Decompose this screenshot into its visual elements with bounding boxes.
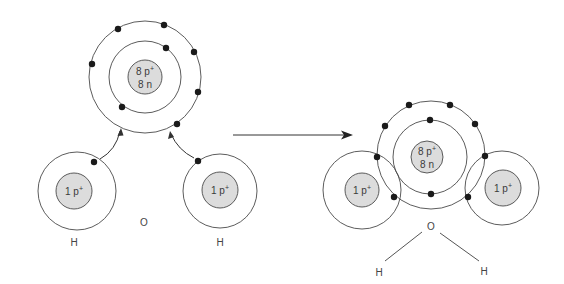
electron-dot <box>163 45 169 51</box>
formula-hydrogen-left-label: H <box>375 267 382 278</box>
hydrogen-left-symbol-label: H <box>70 237 77 248</box>
oxygen-nucleus-neutrons: 8 n <box>138 79 152 90</box>
bond-line-right <box>440 233 479 261</box>
bond-line-left <box>385 232 422 261</box>
curved-arrow-icon <box>171 134 194 158</box>
structural-formula: O H H <box>375 221 487 278</box>
electron-dot <box>89 61 95 67</box>
before-hydrogen-left-atom: 1 p+ <box>38 152 116 230</box>
electron-dot <box>406 102 412 108</box>
hydrogen-right-symbol-label: H <box>216 237 223 248</box>
electron-dot <box>119 104 125 110</box>
electron-transfer-arrow-left <box>100 128 124 159</box>
reaction-arrow <box>233 131 353 140</box>
formula-hydrogen-right-label: H <box>480 266 487 277</box>
electron-dot <box>91 159 97 165</box>
electron-dot <box>191 49 197 55</box>
shared-electron-dot <box>465 194 471 200</box>
before-oxygen-atom: 8 p+ 8 n <box>89 21 201 133</box>
electron-dot <box>427 117 433 123</box>
electron-dot <box>195 158 201 164</box>
electron-dot <box>115 26 121 32</box>
electron-dot <box>428 191 434 197</box>
electron-dot <box>382 123 388 129</box>
electron-dot <box>447 102 453 108</box>
electron-dot <box>195 89 201 95</box>
arrowhead-icon <box>118 128 124 136</box>
water-molecule-formation-diagram: 8 p+ 8 n O 1 p+ H 1 p+ H <box>0 0 564 284</box>
formula-oxygen-label: O <box>427 221 435 232</box>
after-hydrogen-right-atom: 1 p+ <box>465 151 539 225</box>
after-oxygen-atom: 8 p+ 8 n <box>374 101 488 209</box>
shared-electron-dot <box>374 154 380 160</box>
electron-dot <box>472 121 478 127</box>
electron-dot <box>161 22 167 28</box>
oxygen-symbol-label: O <box>140 217 148 228</box>
before-hydrogen-right-atom: 1 p+ <box>183 154 257 228</box>
shared-electron-dot <box>482 153 488 159</box>
electron-dot <box>174 121 180 127</box>
electron-transfer-arrow-right <box>168 131 194 158</box>
oxygen-nucleus-neutrons: 8 n <box>420 159 434 170</box>
curved-arrow-icon <box>100 131 120 159</box>
shared-electron-dot <box>391 194 397 200</box>
